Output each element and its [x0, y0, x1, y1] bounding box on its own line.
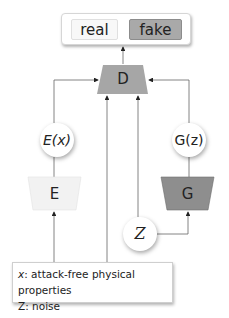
fake-label: fake: [129, 19, 182, 40]
output-box: real fake: [61, 13, 191, 45]
arrow-ex-to-d: [54, 80, 98, 123]
generator-output-node: G(z): [172, 123, 206, 157]
noise-node: Z: [123, 217, 157, 251]
arrow-z-to-g: [157, 212, 188, 234]
legend: x: attack-free physical properties Z: no…: [12, 262, 173, 303]
real-label: real: [71, 19, 118, 40]
generator-label: G: [166, 185, 209, 203]
encoder-output-node: E(x): [40, 123, 74, 157]
encoder-label: E: [33, 185, 76, 203]
legend-item-z: Z: noise: [18, 298, 167, 314]
legend-item-x: x: attack-free physical properties: [18, 266, 167, 298]
arrow-gz-to-d: [149, 80, 189, 123]
discriminator-label: D: [103, 70, 143, 88]
